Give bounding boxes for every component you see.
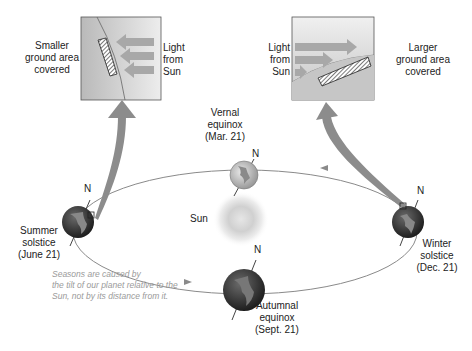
label-line: solstice (14, 237, 64, 249)
label-line: (Mar. 21) (200, 131, 250, 143)
earth-vernal (230, 159, 258, 196)
label-line: equinox (248, 312, 306, 324)
label-line: Light (262, 42, 290, 54)
label-line: Larger (392, 42, 454, 54)
left-inset-light-label: Light from Sun (163, 42, 193, 78)
earth-summer (62, 200, 94, 246)
winter-callout-arrow (322, 117, 406, 208)
north-label-winter: N (417, 185, 424, 197)
vernal-equinox-label: Vernal equinox (Mar. 21) (200, 107, 250, 143)
label-line: Vernal (200, 107, 250, 119)
summer-callout-arrow (95, 116, 126, 220)
label-line: Sun (262, 66, 290, 78)
orbit-direction-arrow-top (320, 165, 328, 171)
label-line: Summer (14, 225, 64, 237)
label-line: ground area (392, 54, 454, 66)
right-inset (292, 17, 374, 100)
label-line: Sun (163, 66, 193, 78)
caption: Seasons are caused by the tilt of our pl… (52, 269, 192, 302)
left-inset-ground-label: Smaller ground area covered (22, 40, 82, 76)
label-line: ground area (22, 52, 82, 64)
label-line: (Dec. 21) (412, 262, 462, 274)
label-line: Smaller (22, 40, 82, 52)
label-line: equinox (200, 119, 250, 131)
sun-label: Sun (190, 213, 208, 225)
winter-solstice-label: Winter solstice (Dec. 21) (412, 238, 462, 274)
label-line: from (163, 54, 193, 66)
sun-icon (213, 191, 269, 247)
label-line: (June 21) (14, 249, 64, 261)
label-line: Winter (412, 238, 462, 250)
label-line: covered (22, 64, 82, 76)
caption-line: Sun, not by its distance from it. (52, 291, 192, 302)
label-line: covered (392, 66, 454, 78)
label-line: from (262, 54, 290, 66)
right-inset-ground-label: Larger ground area covered (392, 42, 454, 78)
label-line: Light (163, 42, 193, 54)
north-label-autumnal: N (254, 244, 261, 256)
caption-line: Seasons are caused by (52, 269, 192, 280)
north-label-summer: N (84, 183, 91, 195)
left-inset (81, 17, 161, 100)
north-label-vernal: N (252, 148, 259, 160)
autumnal-equinox-label: Autumnal equinox (Sept. 21) (248, 300, 306, 336)
caption-line: the tilt of our planet relative to the (52, 280, 192, 291)
label-line: (Sept. 21) (248, 324, 306, 336)
label-line: solstice (412, 250, 462, 262)
right-inset-light-label: Light from Sun (262, 42, 290, 78)
summer-solstice-label: Summer solstice (June 21) (14, 225, 64, 261)
label-line: Autumnal (248, 300, 306, 312)
